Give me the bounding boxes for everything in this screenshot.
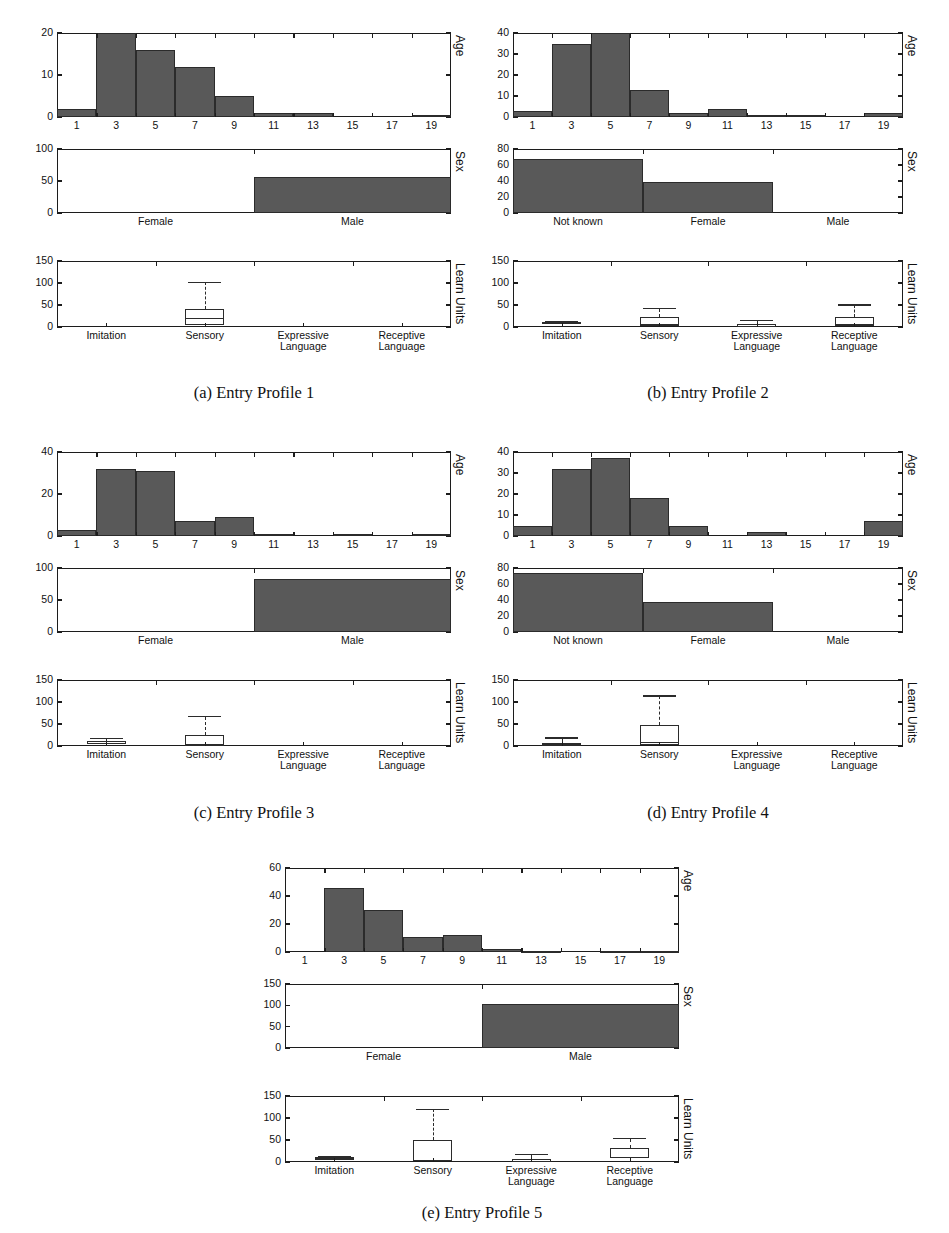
x-tick-top [708,33,709,38]
y-tick-label: 50 [17,718,53,729]
profile-caption-d: (d) Entry Profile 4 [513,803,903,823]
x-tick-top [254,261,255,266]
bar [552,44,591,118]
y-tick-label: 40 [245,890,281,901]
y-tick-right [674,983,679,984]
y-tick-right [898,745,903,746]
axis-title-sex: Sex [905,570,919,591]
x-tick-top [443,868,444,873]
y-tick [285,1095,290,1096]
axis-title-learn-units: Learn Units [681,1098,695,1159]
axis-title-learn-units: Learn Units [453,682,467,743]
y-tick-right [446,32,451,33]
y-tick-right [674,923,679,924]
y-tick [57,567,62,568]
profile-caption-b: (b) Entry Profile 2 [513,383,903,403]
bar [513,573,643,632]
y-tick-label: 100 [473,277,509,288]
x-tick [205,323,206,327]
x-tick [372,532,373,536]
y-tick-label: 100 [17,696,53,707]
y-tick-label: 150 [473,674,509,685]
x-tick-top [806,261,807,266]
bar [482,949,521,952]
x-tick [96,532,97,536]
x-tick [757,742,758,746]
bar [254,579,451,632]
x-tick [708,113,709,117]
x-tick-label: ExpressiveLanguage [254,749,353,771]
bar [630,90,669,117]
x-tick [293,532,294,536]
y-tick-right [898,631,903,632]
bar [57,109,96,117]
x-tick [708,532,709,536]
y-tick-right [898,32,903,33]
bar [136,471,175,536]
x-tick-top [482,1096,483,1101]
x-tick-top [175,33,176,38]
x-tick [333,532,334,536]
x-tick-label: Male [708,216,949,227]
y-tick [57,599,62,600]
profile-caption-e: (e) Entry Profile 5 [285,1203,679,1223]
x-tick [669,113,670,117]
y-tick-right [898,567,903,568]
y-tick [57,679,62,680]
y-tick-label: 150 [17,255,53,266]
y-tick-right [898,74,903,75]
y-tick-label: 20 [17,488,53,499]
box-plot-upper-cap [643,695,676,696]
bar [864,521,903,536]
panel-learn-units-c: 050100150Learn UnitsImitationSensoryExpr… [57,680,451,746]
panel-age-e: 0204060Age135791113151719 [285,868,679,952]
x-tick-top [611,680,612,685]
x-tick [175,532,176,536]
axis-title-learn-units: Learn Units [905,682,919,743]
y-tick-right [898,148,903,149]
y-tick-label: 40 [17,446,53,457]
x-tick-label: Sensory [611,749,709,760]
x-tick-label: 19 [392,539,471,550]
x-tick-top [640,868,641,873]
box-plot-upper-whisker [659,309,660,318]
x-tick-top [254,33,255,38]
y-tick-label: 40 [473,594,509,605]
y-tick [57,723,62,724]
x-tick-top [591,452,592,457]
bar [864,113,903,117]
y-tick [57,74,62,75]
y-tick-label: 10 [473,90,509,101]
x-tick-top [96,452,97,457]
x-tick-label: Sensory [611,330,709,341]
x-tick-top [708,680,709,685]
x-tick [412,113,413,117]
y-tick-right [446,148,451,149]
bar [513,111,552,117]
x-tick [591,532,592,536]
bar [640,951,679,953]
x-tick-label: Imitation [513,749,611,760]
y-tick [57,282,62,283]
bar [482,1004,679,1048]
y-tick-right [898,472,903,473]
x-tick-top [786,452,787,457]
bar [215,96,254,117]
x-tick-label: Imitation [513,330,611,341]
x-tick [106,323,107,327]
axis-title-learn-units: Learn Units [905,263,919,324]
y-tick-label: 60 [245,862,281,873]
y-tick-right [898,196,903,197]
y-tick-right [898,304,903,305]
y-tick-right [446,723,451,724]
box-plot-upper-whisker [433,1109,434,1140]
y-tick-right [898,326,903,327]
y-tick-right [674,1095,679,1096]
bar [136,50,175,117]
x-tick-top [806,680,807,685]
bar [443,935,482,952]
box-plot-upper-cap [740,320,773,321]
y-tick [285,983,290,984]
y-tick [513,53,518,54]
y-tick-right [674,867,679,868]
